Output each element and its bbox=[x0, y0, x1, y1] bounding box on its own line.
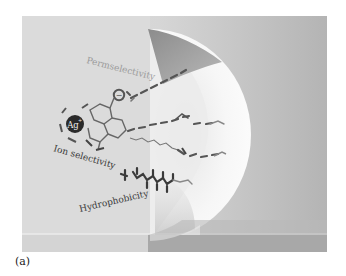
svg-text:−: − bbox=[116, 91, 123, 100]
panel-label: (a) bbox=[15, 255, 30, 268]
svg-text:+: + bbox=[78, 117, 82, 123]
membrane-diagram: − Ag + bbox=[0, 0, 346, 276]
silver-ion: Ag + bbox=[66, 115, 84, 133]
